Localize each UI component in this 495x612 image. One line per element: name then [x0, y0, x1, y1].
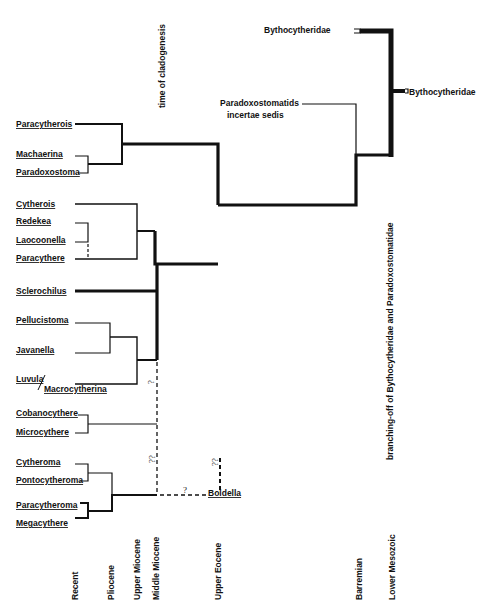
time-of-cladogenesis-label: time of cladogenesis — [157, 24, 167, 108]
time-tick-pliocene: Pliocene — [106, 565, 116, 600]
branching-off-label: branching-off of Bythocytheridae and Par… — [385, 222, 395, 460]
uncertainty-mark-4: ?? — [210, 458, 220, 466]
branch-bythocytheridae-top — [360, 31, 391, 157]
taxon-machaerina: Machaerina — [16, 149, 63, 159]
label-bythocytheridae-right: Bythocytheridae — [409, 87, 476, 97]
time-tick-recent: Recent — [70, 571, 80, 600]
branch-paracytherois-clade — [122, 144, 218, 205]
taxon-paracytherois: Paracytherois — [16, 119, 72, 129]
taxon-cytheroma: Cytheroma — [16, 457, 61, 467]
label-paradoxostomatids: Paradoxostomatids — [220, 98, 299, 108]
branch-main — [218, 155, 393, 205]
taxon-javanella: Javanella — [16, 345, 55, 355]
taxon-paradoxostoma: Paradoxostoma — [16, 167, 80, 177]
taxon-boldella: Boldella — [208, 488, 241, 498]
time-tick-middle-miocene: Middle Miocene — [151, 536, 161, 600]
branch-cytheroma-group — [88, 495, 157, 511]
time-tick-upper-eocene: Upper Eocene — [213, 543, 223, 600]
bythocytheridae-branch — [360, 31, 405, 157]
thick-branches — [75, 144, 393, 360]
taxon-microcythere: Microcythere — [16, 427, 69, 437]
branch-pellucistoma-javanella — [75, 323, 110, 353]
time-tick-barremian: Barremian — [354, 558, 364, 600]
branch-cytheroma-connector — [88, 473, 112, 495]
taxon-cobanocythere: Cobanocythere — [16, 408, 78, 418]
branch-paracytherois — [75, 124, 122, 164]
bracket-bythocytheridae-top — [354, 29, 360, 33]
branch-luvula — [75, 337, 137, 384]
taxon-megacythere: Megacythere — [16, 518, 68, 528]
label-bythocytheridae-top: Bythocytheridae — [264, 25, 331, 35]
uncertainty-mark-1: ? — [146, 380, 156, 384]
taxon-laocoonella: Laocoonella — [16, 235, 66, 245]
time-tick-lower-mesozoic: Lower Mesozoic — [387, 534, 397, 600]
branch-cytherois-clade — [155, 231, 218, 264]
taxon-sclerochilus: Sclerochilus — [16, 286, 67, 296]
taxon-pontocytheroma: Pontocytheroma — [16, 475, 83, 485]
uncertainty-mark-2: ?? — [147, 455, 157, 463]
medium-branches — [75, 124, 157, 518]
taxon-paracytheroma: Paracytheroma — [16, 500, 78, 510]
bracket-bythocytheridae-right — [405, 89, 408, 93]
uncertainty-mark-3: ? — [183, 485, 187, 495]
taxon-redekea: Redekea — [16, 216, 51, 226]
cladogram: Paracytherois Machaerina Paradoxostoma C… — [0, 0, 495, 612]
branch-redekea-laocoonella — [75, 223, 88, 242]
taxon-pellucistoma: Pellucistoma — [16, 315, 69, 325]
time-tick-upper-miocene: Upper Miocene — [132, 539, 142, 600]
taxon-paracythere: Paracythere — [16, 253, 65, 263]
uncertain-branches — [157, 362, 220, 495]
taxon-luvula: Luvula — [16, 374, 44, 384]
label-incertae-sedis: incertae sedis — [227, 110, 284, 120]
branch-cytherois-paracythere — [75, 204, 137, 259]
taxon-macrocytherina: Macrocytherina — [44, 384, 107, 394]
branch-paradoxostomatids — [302, 104, 356, 155]
taxon-cytherois: Cytherois — [16, 199, 55, 209]
